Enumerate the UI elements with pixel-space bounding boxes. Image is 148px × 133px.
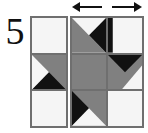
patch-right-r3c2	[107, 90, 143, 127]
patch-left-r1c1	[31, 17, 67, 54]
left-strip-block	[30, 16, 68, 128]
patch-right-r2c1	[71, 54, 107, 91]
arrow-left-shaft	[79, 6, 102, 8]
figure-number-label: 5	[2, 8, 28, 54]
patch-left-r2c1	[31, 54, 67, 91]
arrow-annotation-row	[70, 0, 146, 14]
patch-left-r3c1	[31, 90, 67, 127]
patch-right-r3c1	[71, 90, 107, 127]
right-pieced-block	[70, 16, 144, 128]
patch-right-r1c2	[107, 17, 143, 54]
arrow-left-icon	[72, 5, 102, 9]
arrow-right-shaft	[112, 6, 135, 8]
arrow-right-icon	[112, 5, 142, 9]
patch-right-r1c1	[71, 17, 107, 54]
arrow-right-head	[134, 2, 142, 12]
patch-right-r2c2	[107, 54, 143, 91]
quilt-block-figure: 5	[0, 0, 148, 133]
